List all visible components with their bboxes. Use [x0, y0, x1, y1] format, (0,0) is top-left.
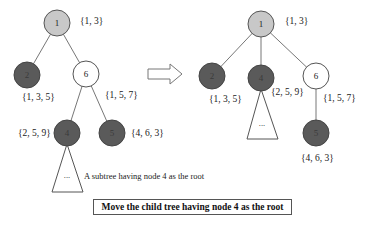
node-5-set: {4, 6, 3} — [131, 128, 164, 138]
subtree-ellipsis: ... — [259, 118, 265, 128]
node-label: 6 — [84, 69, 89, 79]
before-tree: ... A subtree having node 4 as the root … — [14, 10, 205, 192]
node-label: 4 — [259, 73, 264, 83]
node-1: 1 — [248, 11, 274, 37]
right-arrow-icon — [148, 64, 182, 84]
node-label: 2 — [25, 70, 30, 80]
node-label: 2 — [210, 71, 215, 81]
node-6: 6 — [303, 63, 329, 89]
subtree-note: A subtree having node 4 as the root — [84, 171, 205, 181]
node-1-set: {1, 3} — [285, 16, 308, 26]
node-4: 4 — [54, 120, 80, 146]
node-1: 1 — [44, 10, 70, 36]
node-4-set: {2, 5, 9} — [271, 87, 304, 97]
node-label: 4 — [65, 128, 70, 138]
diagram-canvas: ... A subtree having node 4 as the root … — [0, 0, 367, 227]
node-6-set: {1, 5, 7} — [323, 93, 356, 103]
node-2-set: {1, 3, 5} — [22, 92, 55, 102]
after-tree: ... 1 {1, 3} 2 {1, 3, 5} 4 {2, 5, 9} 6 {… — [199, 11, 356, 163]
node-label: 5 — [314, 128, 319, 138]
caption-box: Move the child tree having node 4 as the… — [93, 199, 292, 215]
node-2-set: {1, 3, 5} — [209, 94, 242, 104]
node-2: 2 — [14, 62, 40, 88]
node-5: 5 — [303, 120, 329, 146]
subtree-ellipsis: ... — [64, 170, 70, 180]
node-label: 6 — [314, 71, 319, 81]
node-label: 1 — [55, 18, 60, 28]
node-label: 5 — [110, 128, 115, 138]
node-5-set: {4, 6, 3} — [301, 153, 334, 163]
node-6-set: {1, 5, 7} — [105, 90, 138, 100]
node-6: 6 — [73, 61, 99, 87]
node-5: 5 — [99, 120, 125, 146]
node-4-set: {2, 5, 9} — [18, 128, 51, 138]
node-label: 1 — [259, 19, 264, 29]
subtree-triangle — [52, 144, 83, 192]
node-2: 2 — [199, 63, 225, 89]
node-1-set: {1, 3} — [80, 16, 103, 26]
